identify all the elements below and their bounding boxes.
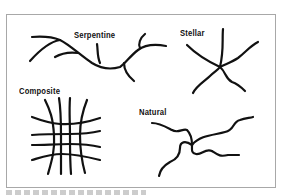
crack-pattern-illustrations: [0, 0, 282, 195]
label-stellar: Stellar: [180, 28, 205, 38]
composite-pattern-icon: [32, 98, 100, 174]
figure-caption-cropped: [6, 190, 146, 195]
serpentine-pattern-icon: [30, 34, 166, 81]
stellar-pattern-icon: [187, 29, 258, 93]
label-composite: Composite: [19, 86, 60, 96]
label-natural: Natural: [139, 107, 167, 117]
label-serpentine: Serpentine: [74, 30, 115, 40]
natural-pattern-icon: [152, 117, 253, 176]
